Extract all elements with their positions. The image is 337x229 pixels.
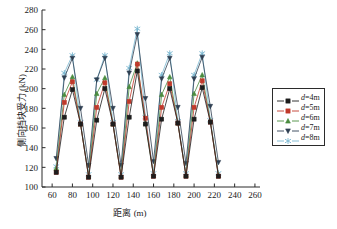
legend-label: d=8m [300, 133, 320, 142]
legend-label: d=5m [300, 103, 320, 112]
x-tick-label: 160 [147, 190, 161, 200]
triangle-up-marker-icon [276, 112, 300, 122]
legend-label: d=6m [300, 113, 320, 122]
legend-label: d=4m [300, 93, 320, 102]
x-tick-label: 180 [167, 190, 181, 200]
legend-item: d=7m [276, 122, 320, 132]
x-tick-label: 80 [68, 190, 78, 200]
x-tick-label: 60 [48, 190, 58, 200]
legend-item: d=8m [276, 132, 320, 142]
legend-label-value: =6m [305, 113, 320, 122]
triangle-down-marker-icon [276, 122, 300, 132]
legend-label-value: =8m [305, 133, 320, 142]
legend-item: d=4m [276, 92, 320, 102]
legend-label: d=7m [300, 123, 320, 132]
y-tick-label: 260 [25, 25, 39, 35]
asterisk-marker-icon [276, 132, 300, 142]
square-marker-icon [276, 102, 300, 112]
x-tick-label: 100 [86, 190, 100, 200]
series-d=7m [54, 33, 221, 168]
legend-item: d=6m [276, 112, 320, 122]
x-tick-label: 200 [187, 190, 201, 200]
square-marker-icon [276, 92, 300, 102]
x-tick-label: 120 [106, 190, 120, 200]
legend-label-value: =5m [305, 103, 320, 112]
legend-item: d=5m [276, 102, 320, 112]
x-tick-label: 240 [228, 190, 242, 200]
series-d=4m [54, 69, 220, 179]
x-tick-label: 140 [127, 190, 141, 200]
legend: d=4md=5md=6md=7md=8m [272, 88, 325, 146]
y-axis-label: 侧向挡块受力 (kN) [15, 36, 28, 186]
y-tick-label: 280 [25, 5, 39, 15]
legend-label-value: =4m [305, 93, 320, 102]
chart-figure: 1001201401601802002202402602806080100120… [0, 0, 337, 229]
x-tick-label: 220 [208, 190, 222, 200]
legend-label-value: =7m [305, 123, 320, 132]
x-axis-label: 距离 (m) [0, 206, 260, 219]
x-tick-label: 260 [248, 190, 262, 200]
